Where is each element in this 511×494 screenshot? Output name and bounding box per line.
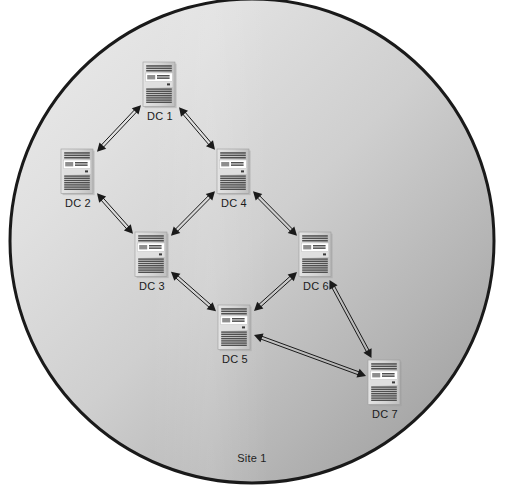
node-dc2[interactable]: DC 2 (61, 149, 95, 209)
topology-diagram: DC 1DC 2DC 3DC 4DC 5DC 6DC 7 Site 1 (0, 0, 511, 494)
server-tower-icon (218, 305, 252, 351)
node-label-dc5: DC 5 (222, 353, 248, 365)
site-label: Site 1 (237, 452, 266, 464)
node-label-dc6: DC 6 (303, 280, 329, 292)
node-label-dc4: DC 4 (221, 197, 247, 209)
server-tower-icon (299, 232, 333, 278)
server-tower-icon (143, 62, 177, 108)
node-dc6[interactable]: DC 6 (299, 232, 333, 292)
node-label-dc1: DC 1 (147, 110, 173, 122)
server-tower-icon (61, 149, 95, 195)
node-dc4[interactable]: DC 4 (217, 149, 251, 209)
diagram-canvas: DC 1DC 2DC 3DC 4DC 5DC 6DC 7 Site 1 (0, 0, 511, 494)
node-dc1[interactable]: DC 1 (143, 62, 177, 122)
node-dc3[interactable]: DC 3 (135, 232, 169, 292)
node-label-dc2: DC 2 (65, 197, 91, 209)
site-boundary-circle (10, 0, 494, 494)
node-dc7[interactable]: DC 7 (368, 360, 402, 420)
node-label-dc3: DC 3 (139, 280, 165, 292)
node-dc5[interactable]: DC 5 (218, 305, 252, 365)
server-tower-icon (135, 232, 169, 278)
node-label-dc7: DC 7 (372, 408, 398, 420)
server-tower-icon (368, 360, 402, 406)
server-tower-icon (217, 149, 251, 195)
